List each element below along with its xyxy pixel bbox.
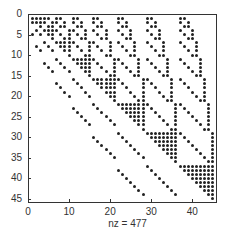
nonzero-marker: [125, 140, 128, 143]
nonzero-marker: [142, 123, 145, 126]
nonzero-marker: [125, 37, 128, 40]
nonzero-marker: [129, 91, 132, 94]
nonzero-marker: [211, 197, 214, 200]
nonzero-marker: [96, 82, 99, 85]
nonzero-marker: [63, 91, 66, 94]
nonzero-marker: [100, 144, 103, 147]
nonzero-marker: [170, 91, 173, 94]
nonzero-marker: [80, 25, 83, 28]
nonzero-marker: [195, 173, 198, 176]
nonzero-marker: [125, 103, 128, 106]
nonzero-marker: [117, 78, 120, 81]
nonzero-marker: [59, 25, 62, 28]
nonzero-marker: [105, 54, 108, 57]
nonzero-marker: [195, 95, 198, 98]
nonzero-marker: [199, 181, 202, 184]
nonzero-marker: [88, 74, 91, 77]
nonzero-marker: [179, 17, 182, 20]
nonzero-marker: [187, 169, 190, 172]
nonzero-marker: [121, 25, 124, 28]
nonzero-marker: [63, 37, 66, 40]
nonzero-marker: [174, 128, 177, 131]
nonzero-marker: [76, 62, 79, 65]
nonzero-marker: [195, 45, 198, 48]
nonzero-marker: [203, 91, 206, 94]
nonzero-marker: [162, 41, 165, 44]
nonzero-marker: [59, 41, 62, 44]
nonzero-marker: [121, 107, 124, 110]
nonzero-marker: [63, 25, 66, 28]
nonzero-marker: [51, 33, 54, 36]
nonzero-marker: [211, 181, 214, 184]
nonzero-marker: [170, 189, 173, 192]
spy-plot-area: [28, 14, 217, 203]
nonzero-marker: [39, 49, 42, 52]
y-tick-mark: [28, 55, 31, 56]
nonzero-marker: [166, 123, 169, 126]
nonzero-marker: [166, 70, 169, 73]
nonzero-marker: [166, 152, 169, 155]
nonzero-marker: [166, 74, 169, 77]
nonzero-marker: [133, 49, 136, 52]
nonzero-marker: [166, 62, 169, 65]
nonzero-marker: [88, 95, 91, 98]
nonzero-marker: [174, 103, 177, 106]
nonzero-marker: [105, 29, 108, 32]
nonzero-marker: [84, 66, 87, 69]
nonzero-marker: [68, 70, 71, 73]
nonzero-marker: [166, 66, 169, 69]
nonzero-marker: [125, 86, 128, 89]
nonzero-marker: [76, 17, 79, 20]
nonzero-marker: [137, 152, 140, 155]
nonzero-marker: [125, 111, 128, 114]
nonzero-marker: [170, 140, 173, 143]
nonzero-marker: [191, 115, 194, 118]
x-tick-label: 30: [146, 206, 157, 217]
nonzero-marker: [51, 25, 54, 28]
nonzero-marker: [96, 33, 99, 36]
nonzero-marker: [109, 49, 112, 52]
nonzero-marker: [35, 17, 38, 20]
nonzero-marker: [183, 45, 186, 48]
nonzero-marker: [39, 25, 42, 28]
nonzero-marker: [137, 62, 140, 65]
nonzero-marker: [211, 193, 214, 196]
nonzero-marker: [150, 62, 153, 65]
nonzero-marker: [68, 54, 71, 57]
nonzero-marker: [129, 181, 132, 184]
nonzero-marker: [84, 91, 87, 94]
nonzero-marker: [51, 21, 54, 24]
y-tick-label: 15: [2, 70, 22, 81]
nonzero-marker: [199, 62, 202, 65]
nonzero-marker: [92, 41, 95, 44]
nonzero-marker: [129, 54, 132, 57]
nonzero-marker: [183, 136, 186, 139]
nonzero-marker: [100, 49, 103, 52]
nonzero-marker: [51, 29, 54, 32]
nonzero-marker: [162, 54, 165, 57]
nonzero-marker: [55, 21, 58, 24]
nonzero-marker: [68, 49, 71, 52]
nonzero-marker: [129, 107, 132, 110]
nonzero-marker: [158, 136, 161, 139]
nonzero-marker: [113, 70, 116, 73]
nonzero-marker: [137, 74, 140, 77]
nonzero-marker: [133, 107, 136, 110]
nonzero-marker: [211, 132, 214, 135]
nonzero-marker: [109, 78, 112, 81]
nonzero-marker: [121, 103, 124, 106]
nonzero-marker: [121, 62, 124, 65]
nonzero-marker: [137, 115, 140, 118]
nonzero-marker: [150, 169, 153, 172]
nonzero-marker: [68, 29, 71, 32]
nonzero-marker: [113, 86, 116, 89]
nonzero-marker: [146, 132, 149, 135]
nonzero-marker: [191, 177, 194, 180]
nonzero-marker: [109, 119, 112, 122]
nonzero-marker: [170, 95, 173, 98]
nonzero-marker: [55, 29, 58, 32]
nonzero-marker: [31, 21, 34, 24]
nonzero-marker: [195, 177, 198, 180]
nonzero-marker: [59, 33, 62, 36]
y-tick-mark: [28, 14, 31, 15]
